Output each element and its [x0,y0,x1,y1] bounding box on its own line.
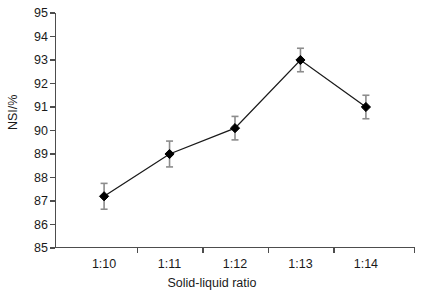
x-axis-tick [137,248,138,253]
plot-area: 8586878889909192939495 1:101:111:121:131… [55,13,415,248]
y-axis-tick-label: 87 [34,194,48,208]
y-axis-tick-label: 88 [34,171,48,185]
x-axis-tick [202,248,203,253]
x-axis-tick-label: 1:14 [354,257,378,271]
x-axis-tick-label: 1:10 [92,257,116,271]
y-axis-tick-label: 91 [34,100,48,114]
y-axis-title: NSI/% [6,95,20,130]
y-axis-tick-label: 95 [34,6,48,20]
y-axis-tick-label: 94 [34,30,48,44]
x-axis-tick [414,248,415,253]
x-axis-tick [268,248,269,253]
data-series [55,13,415,248]
y-axis-tick-label: 85 [34,241,48,255]
y-axis-tick-label: 93 [34,53,48,67]
y-axis-tick-label: 89 [34,147,48,161]
x-axis-title: Solid-liquid ratio [0,276,424,290]
x-axis-tick-label: 1:12 [223,257,247,271]
data-point-marker [361,102,370,111]
y-axis-tick-label: 86 [34,218,48,232]
x-axis-tick-label: 1:11 [158,257,181,271]
data-point-marker [99,192,108,201]
chart-figure: NSI/% Solid-liquid ratio 858687888990919… [0,0,424,296]
y-axis-tick-label: 92 [34,77,48,91]
y-axis-tick-label: 90 [34,124,48,138]
data-point-marker [165,149,174,158]
x-axis-tick-label: 1:13 [288,257,312,271]
x-axis-tick [333,248,334,253]
